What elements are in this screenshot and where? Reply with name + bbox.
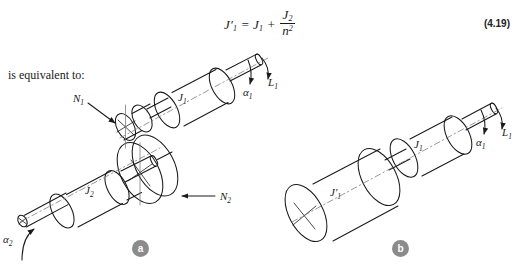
annotation-alpha2-a: [22, 229, 34, 260]
panel-a-assembly: [16, 53, 268, 232]
shaft-between-b: [385, 149, 410, 170]
label-alpha2-a: α2: [3, 233, 13, 248]
label-inertia-j2: J2: [85, 184, 94, 199]
shaft-j1-output-a: [226, 53, 264, 81]
label-inertia-j1-a: J1: [178, 91, 187, 106]
leader-n1: [88, 103, 115, 123]
shaft-n1-to-j1: [147, 98, 171, 118]
shaft-j2-lower: [16, 193, 68, 228]
shaft-j1-output-b: [462, 102, 499, 130]
label-gear-n1: N1: [72, 92, 84, 107]
label-gear-n2: N2: [219, 190, 231, 205]
label-torque-l1-b: L1: [501, 126, 512, 141]
label-torque-l1-a: L1: [267, 76, 278, 91]
mechanical-diagram: J1 J2 N1 N2 α1 L1 α2 J′1 J1 α1 L1: [0, 0, 520, 275]
label-inertia-j1-b: J1: [414, 138, 423, 153]
centerline-b: [292, 108, 502, 222]
label-alpha1-a: α1: [243, 86, 253, 101]
panel-b-assembly: [276, 102, 502, 248]
label-alpha1-b: α1: [476, 136, 486, 151]
